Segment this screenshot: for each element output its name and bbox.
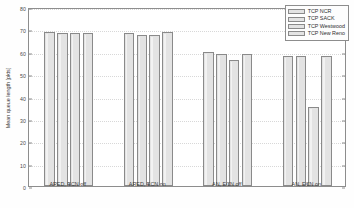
- bar: [321, 56, 332, 186]
- y-axis-tick-mark: [342, 98, 345, 99]
- y-axis-tick-mark: [29, 98, 32, 99]
- x-axis-tick-label: ARED, ECN off: [49, 181, 86, 187]
- legend-item-label: TCP Westwood: [308, 24, 345, 29]
- y-axis-tick-mark: [342, 53, 345, 54]
- x-axis-tick-label: ARED, ECN on: [129, 181, 166, 187]
- y-axis-label-container: Mean queue length [pkts]: [9, 8, 19, 187]
- bar: [242, 54, 253, 186]
- y-axis-tick-label: 50: [20, 73, 26, 79]
- legend-swatch-icon: [288, 24, 305, 29]
- bar: [308, 107, 319, 186]
- legend-item-label: TCP SACK: [308, 16, 335, 21]
- y-axis-tick-mark: [342, 143, 345, 144]
- bar: [229, 60, 240, 186]
- y-axis-tick-mark: [29, 31, 32, 32]
- y-axis-tick-label: 80: [20, 6, 26, 12]
- y-axis-tick-label: 70: [20, 28, 26, 34]
- y-axis-tick-mark: [29, 120, 32, 121]
- bar: [83, 33, 94, 186]
- y-axis-tick-mark: [342, 165, 345, 166]
- bar: [296, 56, 307, 186]
- y-axis-tick-mark: [29, 9, 32, 10]
- x-axis-tick-label: AN, ECN on: [292, 181, 321, 187]
- legend-item[interactable]: TCP Westwood: [288, 23, 345, 30]
- y-axis-tick-label: 10: [20, 163, 26, 169]
- legend-item-label: TCP NCR: [308, 9, 332, 14]
- bar: [216, 54, 227, 186]
- legend-item[interactable]: TCP SACK: [288, 15, 345, 22]
- y-axis-tick-label: 0: [23, 185, 26, 191]
- legend-item[interactable]: TCP NCR: [288, 8, 345, 15]
- legend-item-label: TCP New Reno: [308, 31, 345, 36]
- legend-item[interactable]: TCP New Reno: [288, 30, 345, 37]
- y-axis-tick-mark: [342, 76, 345, 77]
- y-axis-label: Mean queue length [pkts]: [5, 67, 11, 128]
- bar: [137, 35, 148, 186]
- legend[interactable]: TCP NCRTCP SACKTCP WestwoodTCP New Reno: [285, 5, 349, 41]
- bar: [70, 33, 81, 186]
- bar: [149, 35, 160, 186]
- bar: [44, 32, 55, 186]
- x-axis-tick-label: AN, ECN off: [212, 181, 241, 187]
- legend-swatch-icon: [288, 31, 305, 36]
- y-axis-tick-label: 40: [20, 96, 26, 102]
- y-axis-tick-mark: [29, 143, 32, 144]
- bar: [283, 56, 294, 186]
- bar: [162, 32, 173, 186]
- y-axis-tick-mark: [342, 188, 345, 189]
- y-axis-tick-mark: [29, 165, 32, 166]
- bar: [124, 33, 135, 186]
- y-axis-tick-mark: [29, 188, 32, 189]
- y-axis-tick-mark: [29, 53, 32, 54]
- y-axis-tick-label: 60: [20, 51, 26, 57]
- bar: [203, 52, 214, 186]
- y-axis-tick-mark: [29, 76, 32, 77]
- y-axis-tick-label: 30: [20, 118, 26, 124]
- legend-swatch-icon: [288, 9, 305, 14]
- y-axis-tick-label: 20: [20, 140, 26, 146]
- legend-swatch-icon: [288, 17, 305, 22]
- y-axis-tick-mark: [342, 120, 345, 121]
- bar: [57, 33, 68, 186]
- bar-chart-figure: Mean queue length [pkts] 010203040506070…: [0, 0, 354, 208]
